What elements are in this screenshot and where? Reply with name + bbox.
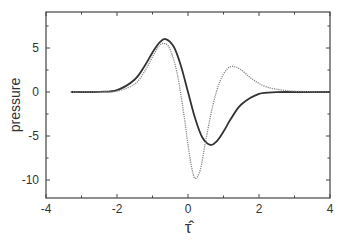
y-tick-label: -5 [28,129,39,143]
plot-lines [71,39,330,178]
plot-frame [46,12,330,198]
y-tick-label: -10 [22,173,40,187]
x-tick-label: 2 [256,202,263,216]
y-tick-label: 5 [32,41,39,55]
x-tick-label: -2 [112,202,123,216]
axis-ticks: -4-2024-10-505 [22,12,334,216]
x-axis-label: τ̂ [185,218,195,237]
pressure-chart: -4-2024-10-505 pressure τ̂ [0,0,338,243]
y-tick-label: 0 [32,85,39,99]
x-tick-label: -4 [41,202,52,216]
y-axis-label: pressure [7,78,23,133]
series-line-dotted [71,43,330,178]
x-tick-label: 0 [185,202,192,216]
x-tick-label: 4 [327,202,334,216]
series-line-solid [71,39,330,145]
